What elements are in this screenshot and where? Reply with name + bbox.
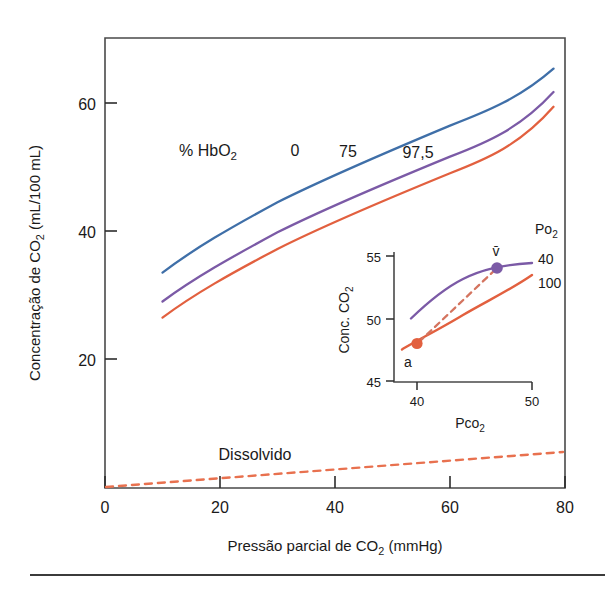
curve-label-75: 75: [339, 143, 357, 160]
x-tick-label-80: 80: [556, 499, 574, 516]
inset-y-tick-label-45: 45: [367, 375, 381, 390]
inset-x-axis-title: Pco2: [455, 415, 485, 434]
legend-hbo2-sub: 2: [231, 150, 237, 162]
inset-legend-title: Po2: [535, 221, 558, 240]
x-tick-label-20: 20: [211, 499, 229, 516]
inset-x-tick-label-50: 50: [525, 394, 539, 409]
y-tick-label-40: 40: [78, 224, 96, 241]
curve-label-0: 0: [291, 142, 300, 159]
inset-series-label-100: 100: [538, 275, 562, 291]
inset-a-to-v-dashed-line: [419, 268, 497, 342]
inset-x-axis: 40 50: [410, 382, 539, 409]
inset-series-label-40: 40: [538, 251, 554, 267]
y-tick-label-20: 20: [78, 352, 96, 369]
inset-legend-pre: Po: [535, 221, 552, 237]
curve-label-dissolvido: Dissolvido: [219, 446, 292, 463]
inset-point-v: [491, 262, 503, 274]
chart-svg: 60 40 20 Concentração de CO2 (mL/100 mL)…: [0, 0, 610, 590]
curve-label-975: 97,5: [402, 144, 433, 161]
y-title-post: (mL/100 mL): [26, 145, 43, 234]
y-title-pre: Concentração de CO: [26, 240, 43, 381]
x-title-post: (mmHg): [384, 537, 442, 554]
inset-y-tick-label-50: 50: [367, 313, 381, 328]
inset-point-a: [411, 338, 422, 349]
inset-y-title-pre: Conc. CO: [336, 292, 352, 354]
inset-x-tick-label-40: 40: [410, 394, 424, 409]
legend-hbo2-title: % HbO2: [179, 142, 237, 162]
x-tick-label-60: 60: [441, 499, 459, 516]
x-tick-label-0: 0: [101, 499, 110, 516]
inset-y-axis: 55 50 45: [367, 250, 394, 390]
inset-plot: 55 50 45 40 50 Pco2 Conc. CO2: [336, 221, 562, 434]
x-tick-label-40: 40: [326, 499, 344, 516]
main-y-axis: 60 40 20: [78, 96, 117, 369]
y-tick-label-60: 60: [78, 96, 96, 113]
svg-text:Concentração de CO2 (mL/100 mL: Concentração de CO2 (mL/100 mL): [26, 145, 46, 381]
inset-y-tick-label-55: 55: [367, 250, 381, 265]
inset-point-v-label: v̄: [493, 243, 500, 259]
x-title-pre: Pressão parcial de CO: [227, 537, 378, 554]
inset-y-axis-title: Conc. CO2: [336, 286, 355, 353]
svg-text:Conc. CO2: Conc. CO2: [336, 286, 355, 353]
curve-hbo2-0: [163, 69, 554, 273]
inset-x-title-pre: Pco: [455, 415, 479, 431]
inset-point-a-label: a: [404, 354, 412, 370]
main-y-axis-title: Concentração de CO2 (mL/100 mL): [26, 145, 46, 381]
inset-legend-sub: 2: [552, 229, 558, 240]
inset-y-title-sub: 2: [344, 286, 355, 292]
main-x-axis-title: Pressão parcial de CO2 (mmHg): [227, 537, 442, 557]
inset-axes-spines: [394, 252, 532, 382]
legend-hbo2-pre: % HbO: [179, 142, 231, 159]
co2-dissociation-figure: 60 40 20 Concentração de CO2 (mL/100 mL)…: [0, 0, 610, 590]
inset-x-title-sub: 2: [479, 423, 485, 434]
